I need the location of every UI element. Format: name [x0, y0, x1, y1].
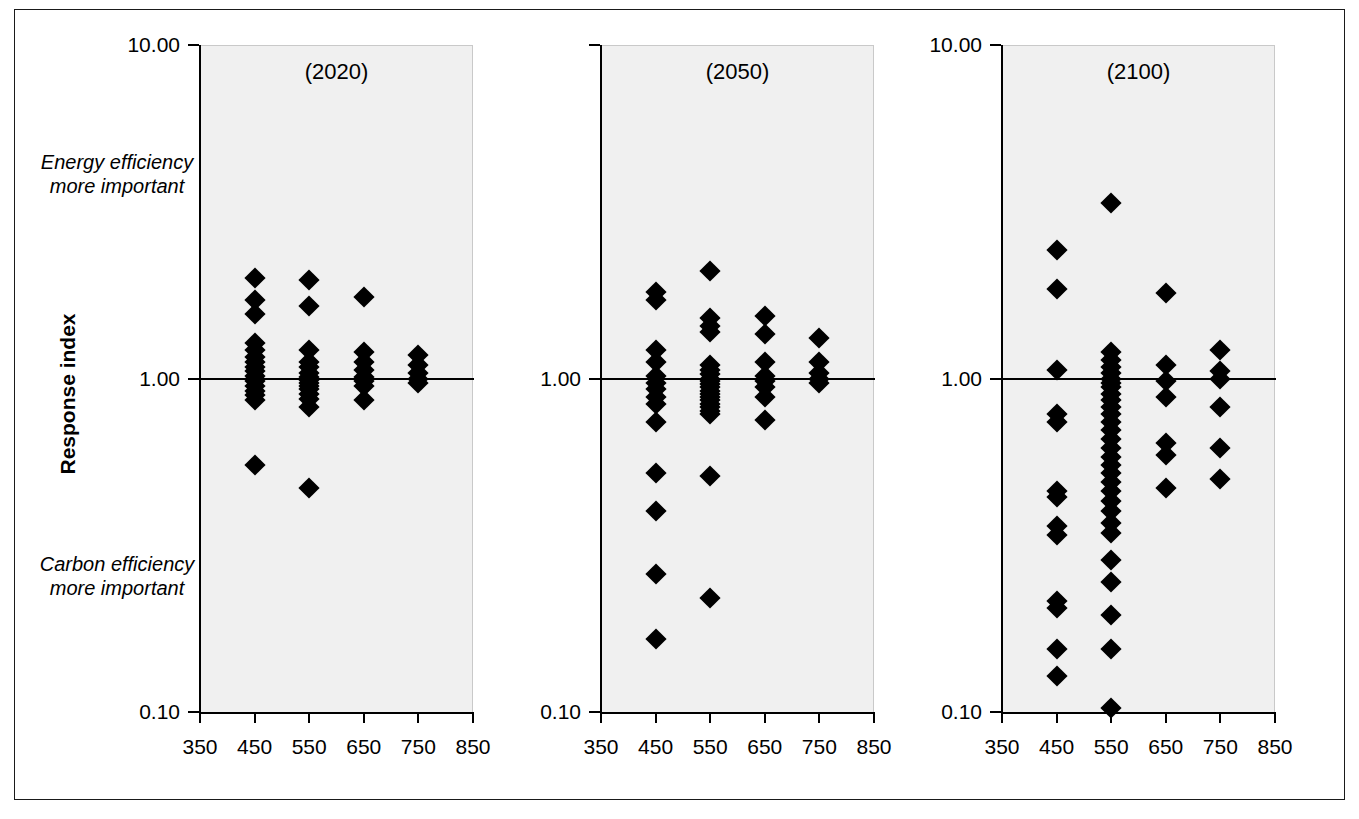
x-axis-tick — [1001, 714, 1003, 723]
y-axis-tick-label: 1.00 — [884, 368, 982, 389]
x-axis-tick-label: 550 — [1081, 736, 1141, 757]
x-axis-spine — [1001, 712, 1276, 714]
chart-panel-2100: 10.001.000.10350450550650750850(2100) — [15, 10, 1346, 801]
y-axis-tick-label: 10.00 — [884, 34, 982, 55]
x-axis-tick-label: 850 — [1245, 736, 1305, 757]
x-axis-tick — [1056, 714, 1058, 723]
reference-line-1.00 — [1001, 378, 1276, 380]
x-axis-tick — [1274, 714, 1276, 723]
y-axis-tick — [990, 44, 1001, 46]
y-axis-tick — [990, 711, 1001, 713]
x-axis-tick-label: 450 — [1027, 736, 1087, 757]
figure-frame: Response index Energy efficiencymore imp… — [14, 9, 1345, 800]
x-axis-tick-label: 650 — [1136, 736, 1196, 757]
x-axis-tick-label: 350 — [972, 736, 1032, 757]
x-axis-tick — [1165, 714, 1167, 723]
panel-title: (2100) — [1079, 61, 1199, 83]
y-axis-tick — [990, 378, 1001, 380]
y-axis-spine — [1001, 45, 1003, 714]
x-axis-tick — [1219, 714, 1221, 723]
x-axis-tick-label: 750 — [1190, 736, 1250, 757]
y-axis-tick-label: 0.10 — [884, 701, 982, 722]
